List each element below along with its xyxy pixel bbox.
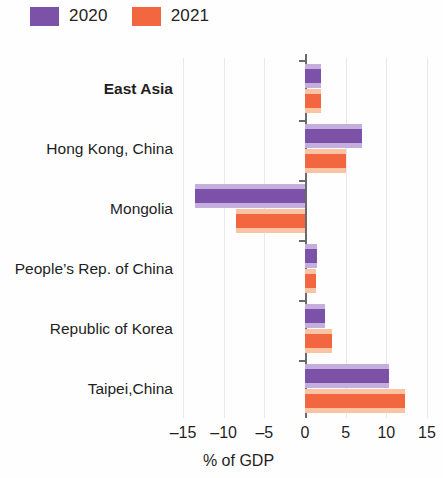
bar-core xyxy=(236,214,305,228)
x-tick--5: –5 xyxy=(255,424,273,442)
category-label: People’s Rep. of China xyxy=(15,261,173,277)
bar-slot xyxy=(183,149,427,173)
x-tick-5: 5 xyxy=(341,424,350,442)
chart-legend: 2020 2021 xyxy=(30,6,209,26)
bar-2020 xyxy=(195,184,305,208)
bar-2021 xyxy=(305,389,405,413)
category-group: Hong Kong, China xyxy=(183,118,427,178)
category-label: East Asia xyxy=(104,81,173,97)
bar-core xyxy=(305,129,362,143)
bar-slot xyxy=(183,209,427,233)
bar-2021 xyxy=(305,329,332,353)
bar-chart: 2020 2021 East AsiaHong Kong, ChinaMongo… xyxy=(0,0,443,478)
category-label: Mongolia xyxy=(110,201,173,217)
legend-item-2021: 2021 xyxy=(132,6,210,26)
bar-2021 xyxy=(305,149,346,173)
bar-core xyxy=(305,394,405,408)
x-axis-tick-labels: –15–10–5051015 xyxy=(183,424,427,446)
category-group: Taipei,China xyxy=(183,358,427,418)
bar-slot xyxy=(183,364,427,388)
bar-core xyxy=(305,334,332,348)
category-group: East Asia xyxy=(183,58,427,118)
category-label: Republic of Korea xyxy=(50,321,173,337)
bar-2020 xyxy=(305,304,325,328)
bar-2020 xyxy=(305,364,389,388)
bar-2020 xyxy=(305,124,362,148)
bar-2021 xyxy=(236,209,305,233)
x-tick-10: 10 xyxy=(377,424,395,442)
x-tick--10: –10 xyxy=(210,424,237,442)
plot-area: East AsiaHong Kong, ChinaMongoliaPeople’… xyxy=(183,58,427,418)
x-tick-0: 0 xyxy=(301,424,310,442)
bar-core xyxy=(305,369,389,383)
legend-label-2020: 2020 xyxy=(69,6,108,26)
category-group: Republic of Korea xyxy=(183,298,427,358)
bar-slot xyxy=(183,89,427,113)
bar-core xyxy=(305,309,325,323)
bar-core xyxy=(195,189,305,203)
bar-slot xyxy=(183,244,427,268)
bar-core xyxy=(305,249,317,263)
legend-label-2021: 2021 xyxy=(171,6,210,26)
bar-slot xyxy=(183,269,427,293)
bar-core xyxy=(305,154,346,168)
x-axis-title: % of GDP xyxy=(0,452,443,470)
x-axis-title-text: % of GDP xyxy=(203,452,274,469)
category-group: People’s Rep. of China xyxy=(183,238,427,298)
bar-core xyxy=(305,274,316,288)
bar-slot xyxy=(183,389,427,413)
legend-item-2020: 2020 xyxy=(30,6,108,26)
legend-swatch-2021 xyxy=(132,7,161,26)
bar-2020 xyxy=(305,244,317,268)
category-label: Taipei,China xyxy=(88,381,173,397)
bar-core xyxy=(305,69,321,83)
bar-slot xyxy=(183,304,427,328)
x-tick-15: 15 xyxy=(418,424,436,442)
bar-core xyxy=(305,94,321,108)
bar-2020 xyxy=(305,64,321,88)
bar-slot xyxy=(183,64,427,88)
bar-2021 xyxy=(305,269,316,293)
gridline-15 xyxy=(427,58,428,418)
x-tick--15: –15 xyxy=(170,424,197,442)
bar-2021 xyxy=(305,89,321,113)
category-label: Hong Kong, China xyxy=(46,141,173,157)
bar-slot xyxy=(183,124,427,148)
legend-swatch-2020 xyxy=(30,7,59,26)
bar-slot xyxy=(183,329,427,353)
category-group: Mongolia xyxy=(183,178,427,238)
bar-slot xyxy=(183,184,427,208)
